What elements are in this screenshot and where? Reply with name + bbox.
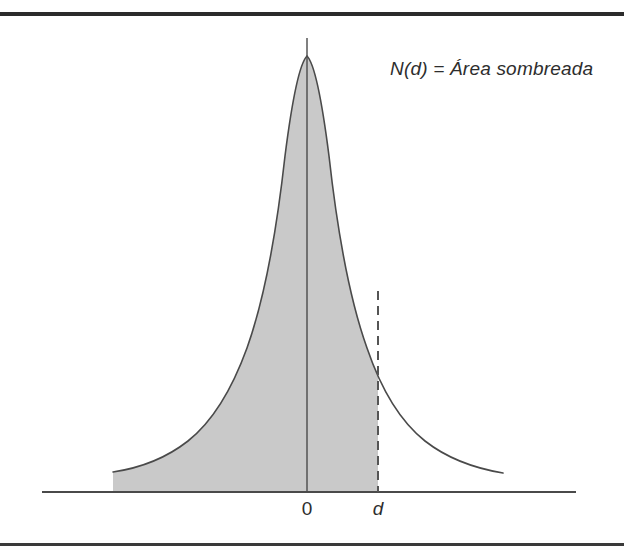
bottom-rule-divider (0, 543, 624, 546)
plot-area (0, 16, 624, 543)
normal-curve-svg (0, 16, 624, 543)
area-annotation-label: N(d) = Área sombreada (390, 58, 593, 80)
x-tick-label-d: d (358, 498, 398, 520)
x-tick-label-zero: 0 (287, 498, 327, 520)
normal-distribution-figure: N(d) = Área sombreada 0 d (0, 0, 624, 559)
